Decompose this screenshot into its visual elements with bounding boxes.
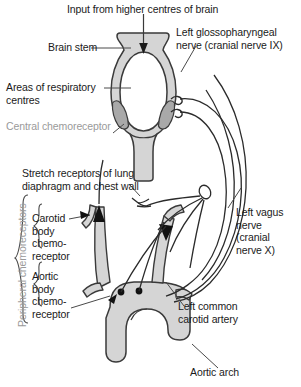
leader-aortic-arch — [192, 344, 218, 368]
label-left-common-carotid-artery: Left common carotid artery — [178, 300, 238, 325]
vagus-nerve-path-2 — [202, 90, 234, 280]
label-stretch-receptors: Stretch receptors of lung diaphragm and … — [22, 167, 139, 192]
label-left-vagus-nerve: Left vagus nerve (cranial nerve X) — [236, 206, 283, 256]
label-central-chemoreceptor: Central chemoreceptor — [6, 120, 111, 133]
vagus-nerve-path — [174, 75, 246, 302]
aortic-arch-group — [82, 205, 192, 362]
brain-stem-group — [111, 33, 176, 181]
label-carotid-body-chemoreceptor: Carotid body chemo- receptor — [32, 212, 70, 262]
stretch-afferent-4 — [146, 196, 200, 206]
label-peripheral-chemoreceptors: Peripheral chemoreceptors — [16, 203, 29, 327]
label-left-glossopharyngeal-nerve: Left glossopharyngeal nerve (cranial ner… — [176, 26, 283, 51]
glossopharyngeal-nerve-path — [176, 99, 241, 299]
diagram-artwork — [0, 0, 301, 387]
label-input-from-higher-centres: Input from higher centres of brain — [67, 3, 218, 16]
leader-aortic-body — [71, 296, 110, 308]
stretch-receptor-fork-1 — [138, 199, 149, 203]
ganglion-node-icon — [197, 183, 213, 200]
label-areas-of-respiratory-centres: Areas of respiratory centres — [6, 81, 96, 106]
right-subclavian-branch — [83, 283, 103, 297]
label-brain-stem: Brain stem — [48, 41, 97, 54]
label-aortic-body-chemoreceptor: Aortic body chemo- receptor — [32, 270, 70, 320]
label-aortic-arch: Aortic arch — [190, 366, 239, 379]
stretch-afferent-3 — [190, 200, 204, 268]
respiratory-control-diagram: Input from higher centres of brain Brain… — [0, 0, 301, 387]
